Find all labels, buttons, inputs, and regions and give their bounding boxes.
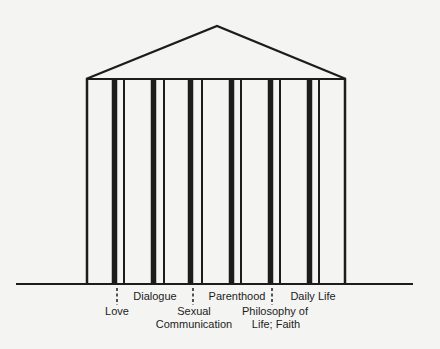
label-parenthood: Parenthood bbox=[209, 290, 266, 303]
label-philosophy-of: Philosophy of bbox=[242, 305, 308, 318]
label-daily-life: Daily Life bbox=[290, 290, 335, 303]
pillar bbox=[271, 79, 281, 284]
roof bbox=[86, 26, 346, 79]
pillar bbox=[310, 79, 320, 284]
label-dialogue: Dialogue bbox=[133, 290, 176, 303]
pillars bbox=[115, 79, 320, 284]
label-communication: Communication bbox=[156, 318, 232, 331]
label-love: Love bbox=[105, 305, 129, 318]
pillar bbox=[154, 79, 165, 284]
roof-pediment bbox=[86, 26, 346, 79]
pillar bbox=[191, 79, 203, 284]
label-life-faith: Life; Faith bbox=[252, 318, 300, 331]
label-sexual: Sexual bbox=[177, 305, 211, 318]
pillar bbox=[232, 79, 242, 284]
pillar bbox=[115, 79, 125, 284]
